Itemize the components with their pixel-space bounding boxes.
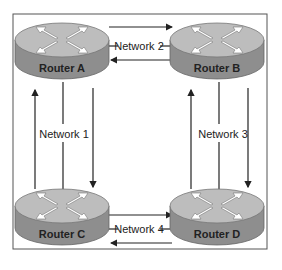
network-3-label: Network 3 <box>198 128 248 140</box>
network-2-label: Network 2 <box>114 40 164 52</box>
network-4-links: Network 4 <box>109 215 172 243</box>
router-a: Router A <box>15 23 109 79</box>
router-a-label: Router A <box>39 62 85 74</box>
router-b-label: Router B <box>194 62 241 74</box>
router-b: Router B <box>170 23 264 79</box>
router-d-label: Router D <box>194 228 241 240</box>
network-2-links: Network 2 <box>109 27 172 60</box>
network-3-links: Network 3 <box>191 82 248 191</box>
network-1-links: Network 1 <box>35 82 93 191</box>
router-d: Router D <box>170 189 264 245</box>
network-4-label: Network 4 <box>114 223 164 235</box>
network-1-label: Network 1 <box>39 128 89 140</box>
network-diagram: Network 2 Network 4 Network 1 Network 3 … <box>0 0 282 270</box>
router-c-label: Router C <box>39 228 86 240</box>
router-c: Router C <box>15 189 109 245</box>
